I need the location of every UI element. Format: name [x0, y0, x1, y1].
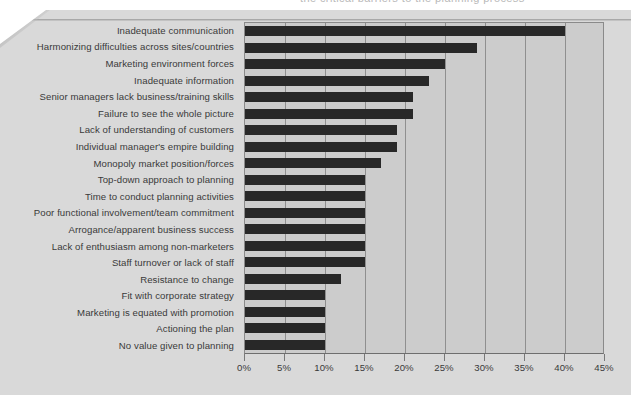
bar: [245, 274, 341, 284]
bar-row: [245, 238, 603, 255]
bar-row: [245, 73, 603, 90]
bar-row: [245, 221, 603, 238]
category-label: Lack of understanding of customers: [8, 122, 240, 139]
bar-row: [245, 271, 603, 288]
axis-tick: [604, 354, 605, 361]
category-label: No value given to planning: [8, 337, 240, 354]
bar-row: [245, 254, 603, 271]
category-label: Lack of enthusiasm among non-marketers: [8, 238, 240, 255]
category-label: Marketing is equated with promotion: [8, 304, 240, 321]
horizontal-bar-chart: Inadequate communicationHarmonizing diff…: [0, 10, 631, 395]
category-label: Staff turnover or lack of staff: [8, 254, 240, 271]
axis-tick: [364, 354, 365, 361]
bar: [245, 142, 397, 152]
bar: [245, 59, 445, 69]
axis-tick-label: 10%: [314, 362, 334, 373]
bar: [245, 43, 477, 53]
bar-row: [245, 320, 603, 337]
bar: [245, 224, 365, 234]
axis-tick-label: 15%: [354, 362, 374, 373]
figure-page: the critical barriers to the planning pr…: [0, 0, 631, 405]
bar-row: [245, 89, 603, 106]
axis-tick: [524, 354, 525, 361]
bar: [245, 307, 325, 317]
category-label: Poor functional involvement/team commitm…: [8, 205, 240, 222]
axis-tick-label: 0%: [237, 362, 251, 373]
category-label: Actioning the plan: [8, 321, 240, 338]
bar-series: [245, 23, 603, 353]
category-label: Top-down approach to planning: [8, 171, 240, 188]
axis-tick: [284, 354, 285, 361]
category-axis-labels: Inadequate communicationHarmonizing diff…: [8, 22, 240, 354]
category-label: Fit with corporate strategy: [8, 288, 240, 305]
category-label: Inadequate information: [8, 72, 240, 89]
bar: [245, 257, 365, 267]
bar-row: [245, 56, 603, 73]
axis-tick-label: 25%: [434, 362, 454, 373]
bar-row: [245, 205, 603, 222]
bar: [245, 109, 413, 119]
bar: [245, 323, 325, 333]
bar: [245, 340, 325, 350]
bar-row: [245, 172, 603, 189]
category-label: Time to conduct planning activities: [8, 188, 240, 205]
axis-tick-label: 35%: [514, 362, 534, 373]
bar: [245, 290, 325, 300]
bar-row: [245, 155, 603, 172]
axis-tick-label: 20%: [394, 362, 414, 373]
category-label: Failure to see the whole picture: [8, 105, 240, 122]
axis-tick-label: 5%: [277, 362, 291, 373]
category-label: Arrogance/apparent business success: [8, 221, 240, 238]
bar: [245, 191, 365, 201]
axis-tick-label: 45%: [594, 362, 614, 373]
bar: [245, 92, 413, 102]
category-label: Individual manager's empire building: [8, 138, 240, 155]
category-label: Inadequate communication: [8, 22, 240, 39]
category-label: Marketing environment forces: [8, 55, 240, 72]
axis-tick: [564, 354, 565, 361]
category-label: Harmonizing difficulties across sites/co…: [8, 39, 240, 56]
value-axis-labels: 0%5%10%15%20%25%30%35%40%45%: [244, 362, 605, 378]
category-label: Monopoly market position/forces: [8, 155, 240, 172]
bar-row: [245, 122, 603, 139]
bar: [245, 125, 397, 135]
axis-tick: [324, 354, 325, 361]
bar-row: [245, 139, 603, 156]
bar: [245, 26, 565, 36]
bar-row: [245, 287, 603, 304]
axis-tick: [244, 354, 245, 361]
category-label: Resistance to change: [8, 271, 240, 288]
bar-row: [245, 188, 603, 205]
bar: [245, 76, 429, 86]
bar: [245, 158, 381, 168]
bar-row: [245, 304, 603, 321]
value-axis-ticks: [244, 354, 605, 362]
bar-row: [245, 106, 603, 123]
axis-tick: [404, 354, 405, 361]
bar: [245, 175, 365, 185]
bar-row: [245, 23, 603, 40]
bar: [245, 208, 365, 218]
category-label: Senior managers lack business/training s…: [8, 88, 240, 105]
cut-off-body-text: the critical barriers to the planning pr…: [0, 0, 631, 9]
axis-tick-label: 40%: [554, 362, 574, 373]
axis-tick: [444, 354, 445, 361]
bar-row: [245, 40, 603, 57]
plot-area: [244, 22, 604, 354]
bar-row: [245, 337, 603, 354]
bar: [245, 241, 365, 251]
axis-tick: [484, 354, 485, 361]
axis-tick-label: 30%: [474, 362, 494, 373]
